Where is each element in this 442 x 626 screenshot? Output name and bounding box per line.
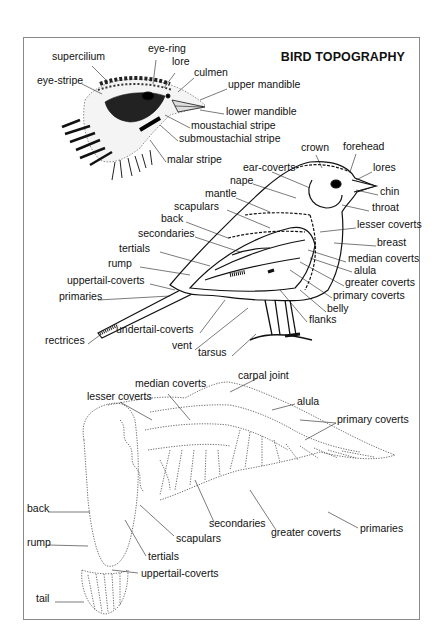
label-lores: lores	[373, 161, 396, 173]
label-crown: crown	[301, 141, 329, 153]
label-scapulars: scapulars	[174, 200, 219, 212]
label-wing-primary-coverts: primary coverts	[337, 413, 409, 425]
label-carpal-joint: carpal joint	[238, 369, 289, 381]
label-flanks: flanks	[309, 313, 336, 325]
label-nape: nape	[230, 174, 253, 186]
label-malar-stripe: malar stripe	[167, 153, 222, 165]
label-primary-coverts: primary coverts	[333, 289, 405, 301]
label-wing-alula: alula	[297, 395, 319, 407]
label-eye-stripe: eye-stripe	[37, 74, 83, 86]
label-tertials: tertials	[119, 242, 150, 254]
label-lore: lore	[172, 55, 190, 67]
label-back: back	[161, 212, 183, 224]
label-moustachial-stripe: moustachial stripe	[191, 119, 276, 131]
label-wing-secondaries: secondaries	[209, 517, 266, 529]
label-wing-tertials: tertials	[148, 550, 179, 562]
label-wing-median-coverts: median coverts	[135, 377, 206, 389]
label-lower-mandible: lower mandible	[226, 105, 297, 117]
label-wing-tail: tail	[36, 592, 49, 604]
label-secondaries: secondaries	[138, 227, 195, 239]
label-throat: throat	[372, 201, 399, 213]
label-wing-primaries: primaries	[360, 522, 403, 534]
label-rump: rump	[108, 257, 132, 269]
label-chin: chin	[380, 185, 399, 197]
label-rectrices: rectrices	[45, 334, 85, 346]
label-upper-mandible: upper mandible	[228, 78, 300, 90]
label-primaries: primaries	[59, 290, 102, 302]
label-lesser-coverts: lesser coverts	[357, 218, 422, 230]
label-culmen: culmen	[194, 66, 228, 78]
label-alula: alula	[354, 264, 376, 276]
label-vent: vent	[172, 339, 192, 351]
label-breast: breast	[377, 236, 406, 248]
label-eye-ring: eye-ring	[148, 42, 186, 54]
label-uppertail-coverts: uppertail-coverts	[67, 274, 145, 286]
label-greater-coverts: greater coverts	[345, 276, 415, 288]
label-tarsus: tarsus	[198, 346, 227, 358]
label-median-coverts: median coverts	[348, 252, 419, 264]
label-supercilium: supercilium	[52, 50, 105, 62]
label-mantle: mantle	[205, 187, 237, 199]
label-wing-uppertail-coverts: uppertail-coverts	[141, 567, 219, 579]
label-wing-rump: rump	[27, 536, 51, 548]
label-wing-greater-coverts: greater coverts	[271, 526, 341, 538]
label-forehead: forehead	[343, 140, 384, 152]
label-ear-coverts: ear-coverts	[243, 161, 296, 173]
label-submoustachial-stripe: submoustachial stripe	[179, 132, 281, 144]
label-undertail-coverts: undertail-coverts	[116, 323, 194, 335]
label-wing-scapulars: scapulars	[176, 532, 221, 544]
label-wing-back: back	[27, 502, 49, 514]
label-wing-lesser-coverts: lesser coverts	[87, 390, 152, 402]
